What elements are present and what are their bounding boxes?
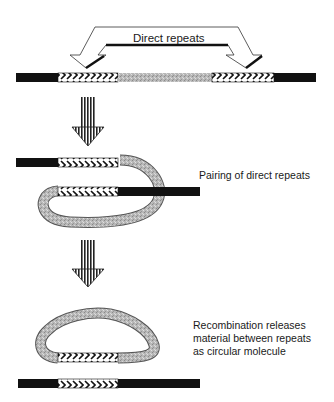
recombination-caption-line-1: Recombination releases [193,319,333,332]
step-down-arrow-2 [72,240,104,287]
linear-dna-remaining [18,379,200,388]
paired-loop-structure [16,158,200,222]
recombination-caption-line-2: material between repeats [193,332,333,345]
recombination-caption: Recombination releases material between … [193,319,333,358]
linear-dna-initial [16,73,316,82]
excised-circular-molecule [41,313,155,362]
direct-repeats-label: Direct repeats [133,32,205,45]
step-down-arrow-1 [72,97,104,146]
recombination-caption-line-3: as circular molecule [193,345,333,358]
pairing-label: Pairing of direct repeats [199,169,310,182]
